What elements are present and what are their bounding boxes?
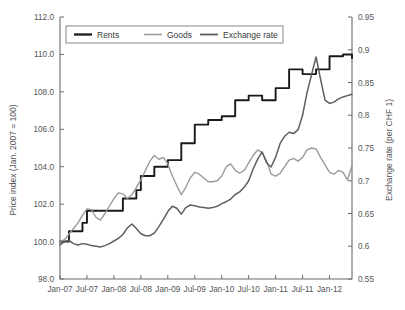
x-tick-label: Jul-07 — [76, 285, 99, 294]
right-tick-label: 0.8 — [358, 111, 370, 120]
left-tick-label: 110.0 — [34, 50, 54, 59]
legend-label-exchange-rate: Exchange rate — [223, 30, 278, 40]
price-index-exchange-rate-line-chart: 98.0100.0102.0104.0106.0108.0110.0112.0 … — [0, 0, 405, 310]
right-tick-label: 0.65 — [358, 210, 374, 219]
legend-label-rents: Rents — [97, 30, 119, 40]
right-tick-label: 0.6 — [358, 242, 370, 251]
left-tick-label: 106.0 — [34, 125, 55, 134]
x-tick-label: Jul-11 — [292, 285, 314, 294]
chart-background — [0, 0, 405, 310]
legend-label-goods: Goods — [167, 30, 192, 40]
left-tick-label: 112.0 — [34, 13, 54, 22]
right-tick-label: 0.55 — [358, 275, 374, 284]
left-tick-label: 102.0 — [34, 200, 55, 209]
left-axis-title: Price index (Jan. 2007 = 100) — [8, 104, 18, 215]
x-tick-label: Jan-09 — [155, 285, 180, 294]
x-tick-label: Jan-11 — [263, 285, 288, 294]
x-tick-label: Jan-08 — [101, 285, 126, 294]
x-tick-label: Jan-07 — [47, 285, 72, 294]
right-tick-label: 0.7 — [358, 177, 370, 186]
x-tick-label: Jul-09 — [184, 285, 207, 294]
left-tick-label: 100.0 — [34, 238, 55, 247]
right-axis-title: Exchange rate (per CHF 1) — [384, 99, 394, 201]
x-tick-label: Jul-08 — [130, 285, 153, 294]
left-tick-label: 104.0 — [34, 163, 55, 172]
right-tick-label: 0.95 — [358, 13, 374, 22]
left-tick-label: 108.0 — [34, 88, 55, 97]
right-tick-label: 0.85 — [358, 79, 374, 88]
chart-figure: 98.0100.0102.0104.0106.0108.0110.0112.0 … — [0, 0, 405, 310]
x-tick-label: Jan-12 — [317, 285, 342, 294]
left-tick-label: 98.0 — [38, 275, 54, 284]
right-tick-label: 0.9 — [358, 46, 370, 55]
chart-legend: RentsGoodsExchange rate — [66, 26, 283, 43]
right-tick-label: 0.75 — [358, 144, 374, 153]
x-tick-label: Jan-10 — [209, 285, 234, 294]
x-tick-label: Jul-10 — [238, 285, 261, 294]
